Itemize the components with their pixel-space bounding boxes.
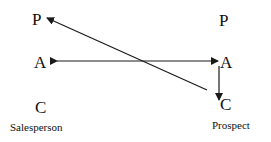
prospect-caption: Prospect — [212, 120, 250, 131]
prospect-parent-label: P — [219, 12, 228, 29]
salesperson-caption: Salesperson — [10, 122, 63, 133]
prospect-adult-label: A — [220, 54, 232, 71]
salesperson-parent-label: P — [32, 11, 41, 28]
salesperson-child-label: C — [35, 99, 46, 116]
salesperson-adult-label: A — [34, 54, 46, 71]
prospect-child-label: C — [220, 96, 231, 113]
child-to-parent-arrow — [47, 18, 207, 90]
